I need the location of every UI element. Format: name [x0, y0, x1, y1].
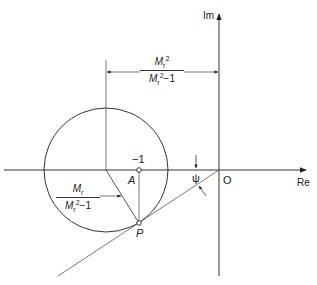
numerator-sub: r — [163, 62, 165, 69]
denominator-sub: r — [157, 80, 159, 87]
fraction-bar — [56, 197, 100, 198]
denominator-tail: −1 — [80, 200, 91, 211]
diagram-canvas — [0, 0, 317, 285]
radius-fraction: Mr Mr2−1 — [56, 183, 100, 213]
minus-one-label: −1 — [132, 154, 145, 165]
m-circle-diagram: Im Re O −1 A P ψ Mr2 Mr2−1 Mr Mr2−1 — [0, 0, 317, 285]
denominator-tail: −1 — [164, 74, 175, 85]
imag-axis-label: Im — [203, 11, 214, 21]
real-axis-label: Re — [297, 178, 310, 188]
point-p-label: P — [136, 228, 143, 239]
point-a — [137, 168, 142, 173]
numerator-m: M — [155, 56, 163, 67]
denominator-sub: r — [73, 206, 75, 213]
center-distance-fraction: Mr2 Mr2−1 — [140, 55, 184, 87]
fraction-bar — [140, 70, 184, 71]
psi-arrow-up — [199, 186, 206, 196]
point-a-label: A — [128, 175, 135, 186]
point-p — [137, 221, 142, 226]
numerator-sub: r — [81, 189, 83, 196]
numerator-sup: 2 — [165, 55, 169, 62]
psi-label: ψ — [192, 173, 200, 184]
origin-label: O — [223, 175, 232, 186]
numerator-m: M — [73, 183, 81, 194]
